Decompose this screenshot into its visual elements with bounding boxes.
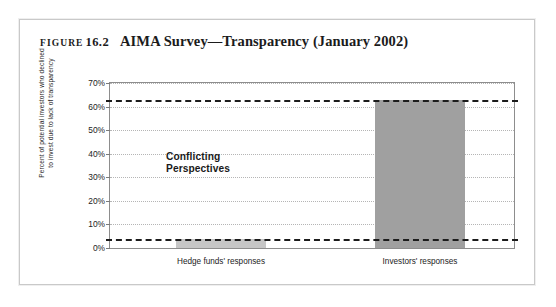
- plot-area: 70% 60% 50% 40% 30% 20% 10% 0% Conflicti…: [109, 82, 515, 249]
- page-title: AIMA Survey—Transparency (January 2002): [120, 33, 408, 49]
- y-tick-label-70: 70%: [88, 78, 105, 88]
- annotation-line2: Perspectives: [166, 163, 230, 175]
- y-tick-mark-20: [106, 201, 110, 202]
- figure-frame: FIGURE16.2AIMA Survey—Transparency (Janu…: [19, 19, 535, 285]
- y-axis-title-line2: to invest due to lack of transparency: [46, 25, 55, 201]
- x-axis-label-investors: Investors' responses: [383, 257, 458, 266]
- y-tick-mark-70: [106, 83, 110, 84]
- gridline-70: [110, 83, 514, 84]
- y-tick-label-10: 10%: [88, 219, 105, 229]
- figure-number: 16.2: [86, 35, 109, 49]
- y-tick-label-0: 0%: [93, 243, 105, 253]
- y-axis-title: Percent of potential investors who decli…: [37, 25, 55, 201]
- y-tick-mark-0: [106, 248, 110, 249]
- y-tick-label-30: 30%: [88, 172, 105, 182]
- y-tick-mark-10: [106, 224, 110, 225]
- y-tick-label-60: 60%: [88, 102, 105, 112]
- y-tick-mark-60: [106, 107, 110, 108]
- y-tick-label-20: 20%: [88, 196, 105, 206]
- reference-line-hedge-funds: [106, 239, 518, 241]
- y-tick-mark-30: [106, 177, 110, 178]
- x-axis-label-hedge-funds: Hedge funds' responses: [177, 257, 265, 266]
- y-tick-label-40: 40%: [88, 149, 105, 159]
- y-tick-label-50: 50%: [88, 125, 105, 135]
- y-axis-title-line1: Percent of potential investors who decli…: [37, 25, 46, 201]
- annotation-line1: Conflicting: [166, 151, 230, 163]
- bar-investors-responses: [375, 100, 465, 249]
- y-tick-mark-50: [106, 130, 110, 131]
- reference-line-investors: [106, 100, 518, 102]
- y-tick-mark-40: [106, 154, 110, 155]
- figure-caption: FIGURE16.2AIMA Survey—Transparency (Janu…: [40, 32, 408, 50]
- annotation-conflicting-perspectives: Conflicting Perspectives: [166, 151, 230, 175]
